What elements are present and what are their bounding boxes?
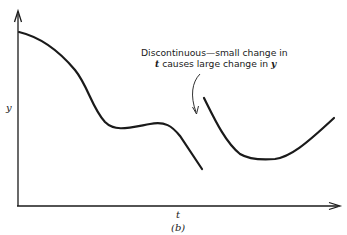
curve-right-segment — [204, 98, 334, 159]
annotation-line-2: t causes large change in y — [155, 58, 277, 69]
discontinuity-diagram: y t (b) Discontinuous—small change in t … — [0, 0, 347, 235]
annotation-mid-text: causes large change in — [159, 58, 271, 69]
annotation-var-y: y — [270, 58, 277, 69]
x-axis-label: t — [176, 209, 181, 220]
figure-caption: (b) — [171, 222, 185, 233]
y-axis-label: y — [5, 102, 12, 113]
annotation-line-1: Discontinuous—small change in — [141, 47, 288, 58]
